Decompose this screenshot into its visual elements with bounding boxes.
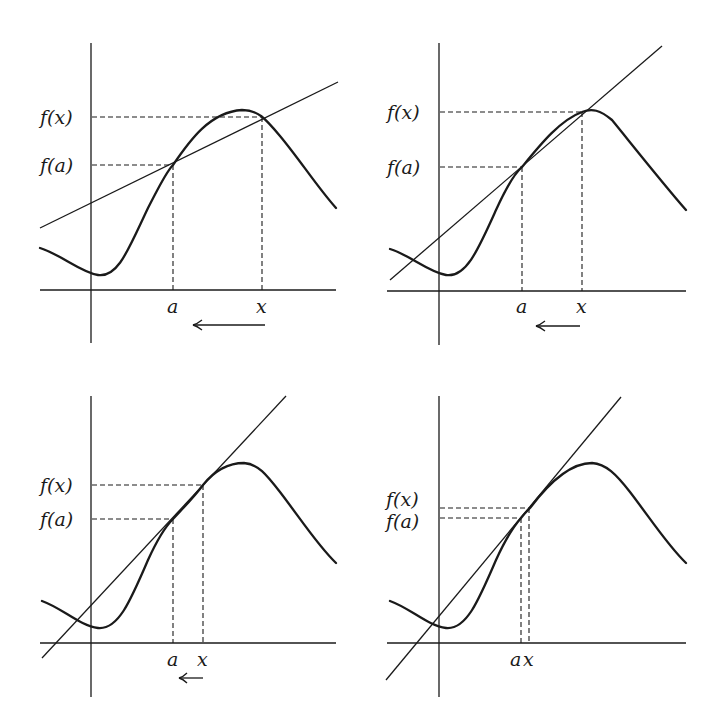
a-label: a [167,648,178,670]
panel-2: f(x) f(a) a x [385,43,686,345]
panel-1: f(x) f(a) a x [38,43,338,343]
fx-label: f(x) [385,101,420,123]
function-curve [42,463,336,628]
function-curve [390,110,686,275]
fa-label: f(a) [38,154,73,176]
function-curve [390,463,686,628]
secant-line [40,82,338,228]
a-label: a [510,648,521,670]
secant-tangent-figure: f(x) f(a) a x f(x) f(a) a x [0,0,723,721]
function-curve [40,110,336,275]
fa-label: f(a) [38,508,73,530]
fx-label: f(x) [384,488,419,510]
fa-label: f(a) [384,510,419,532]
tangent-line [386,397,621,680]
secant-line [390,46,662,280]
a-label: a [167,295,178,317]
panel-4: f(x) f(a) a x [384,396,686,697]
fa-label: f(a) [385,156,420,178]
a-label: a [516,295,527,317]
x-label: x [197,648,208,670]
fx-label: f(x) [38,474,73,496]
panel-3: f(x) f(a) a x [38,396,336,697]
left-arrow-icon [179,673,203,683]
x-label: x [256,295,267,317]
left-arrow-icon [193,320,265,330]
secant-line [42,396,286,658]
left-arrow-icon [536,321,580,331]
fx-label: f(x) [38,106,73,128]
x-label: x [523,648,534,670]
x-label: x [576,295,587,317]
